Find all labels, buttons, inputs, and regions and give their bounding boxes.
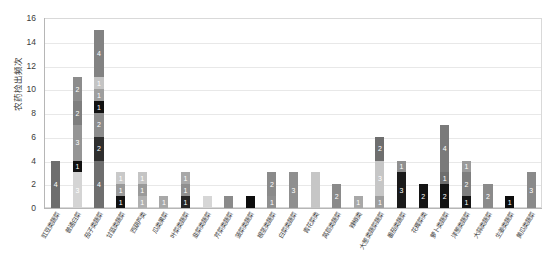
bar-segment[interactable]: 1 [375,196,384,208]
bar-segment-label: 2 [486,193,490,200]
bar-segment[interactable]: 2 [73,101,82,125]
bar-segment[interactable]: 1 [397,161,406,173]
bar-segment[interactable]: 4 [51,161,60,209]
bar-stack[interactable]: 4221114 [94,30,103,208]
bar-segment-label: 2 [335,193,339,200]
x-label-slot: 普通白菜 [67,209,89,275]
bar-stack[interactable]: 1 [354,196,363,208]
bar-segment-label: 1 [119,175,123,182]
bar-slot: 31 [397,18,406,208]
bar-segment[interactable]: 4 [94,161,103,209]
bar-segment[interactable]: 3 [397,172,406,208]
bar-stack[interactable]: 31 [397,161,406,209]
bar-segment[interactable] [224,196,233,208]
bar-stack[interactable]: 111 [181,172,190,208]
bar-segment-label: 2 [75,110,79,117]
bar-segment-label: 1 [140,187,144,194]
bar-segment[interactable]: 1 [116,172,125,184]
y-tick-label: 16 [2,14,36,23]
bar-segment[interactable] [203,196,212,208]
bar-segment-label: 1 [443,175,447,182]
bar-segment[interactable]: 2 [94,137,103,161]
bar-stack[interactable]: 12 [267,172,276,208]
bar-segment-label: 1 [183,187,187,194]
bar-segment[interactable]: 1 [181,196,190,208]
bar-segment[interactable]: 3 [375,161,384,197]
bar-segment[interactable]: 3 [289,172,298,208]
bar-stack[interactable] [246,196,255,208]
bar-segment[interactable]: 1 [159,196,168,208]
bar-segment[interactable] [246,196,255,208]
bar-stack[interactable]: 1 [159,196,168,208]
bar-segment[interactable]: 1 [354,196,363,208]
bar-segment-label: 1 [97,92,101,99]
bar-segment[interactable]: 2 [375,137,384,161]
bar-stack[interactable]: 2 [483,184,492,208]
bar-slot: 2 [332,18,341,208]
bar-segment[interactable]: 1 [116,196,125,208]
bar-segment-label: 1 [464,199,468,206]
bar-segment[interactable]: 1 [138,196,147,208]
bar-segment[interactable]: 1 [94,89,103,101]
bar-segment[interactable]: 1 [462,196,471,208]
bar-segment-label: 1 [183,175,187,182]
bar-segment[interactable]: 3 [527,172,536,208]
bar-segment[interactable]: 4 [94,30,103,78]
bar-stack[interactable]: 111 [116,172,125,208]
x-label-slot: 西葫芦类 [131,209,153,275]
x-label-slot: 瓜类果菜 [153,209,175,275]
bar-stack[interactable]: 3 [527,172,536,208]
bar-segment-label: 2 [75,86,79,93]
bar-stack[interactable]: 2 [332,184,341,208]
bar-segment[interactable]: 1 [73,161,82,173]
bar-segment[interactable]: 2 [94,113,103,137]
bar-slot: 2 [419,18,428,208]
bar-segment[interactable]: 4 [440,125,449,173]
bar-segment[interactable]: 1 [440,172,449,184]
x-axis-tick-labels: 豇豆类蔬菜普通白菜茄子类蔬菜甘蓝类蔬菜西葫芦类瓜类果菜叶菜类蔬菜韭菜类蔬菜芹菜类… [45,209,542,275]
bar-segment[interactable]: 1 [462,161,471,173]
bar-slot: 4221114 [94,18,103,208]
x-label-slot: 洋葱类蔬菜 [456,209,478,275]
bar-segment[interactable]: 1 [138,184,147,196]
bar-segment[interactable]: 2 [332,184,341,208]
bar-stack[interactable]: 3 [289,172,298,208]
bar-stack[interactable]: 214 [440,125,449,208]
bar-segment[interactable]: 3 [73,125,82,161]
bar-stack[interactable]: 2 [419,184,428,208]
y-tick-label: 8 [2,109,36,118]
bar-segment[interactable]: 2 [483,184,492,208]
bar-segment[interactable]: 2 [462,172,471,196]
bar-segment[interactable]: 2 [440,184,449,208]
bar-segment[interactable]: 2 [419,184,428,208]
bar-stack[interactable] [311,172,320,208]
bar-segment[interactable]: 1 [505,196,514,208]
x-label-slot: 黄瓜类蔬菜 [520,209,542,275]
bar-stack[interactable]: 31322 [73,77,82,208]
bar-stack[interactable]: 4 [51,161,60,209]
bar-segment[interactable]: 1 [94,101,103,113]
bar-stack[interactable] [224,196,233,208]
bar-segment[interactable]: 1 [267,196,276,208]
bar-segment[interactable]: 1 [94,77,103,89]
bar-segment[interactable]: 1 [181,184,190,196]
bar-stack[interactable] [203,196,212,208]
bar-segment[interactable]: 2 [73,77,82,101]
bar-segment-label: 1 [75,163,79,170]
bar-stack[interactable]: 1 [505,196,514,208]
bar-segment-label: 4 [443,145,447,152]
bar-segment-label: 1 [183,199,187,206]
bar-stack[interactable]: 132 [375,137,384,208]
bar-segment[interactable] [311,172,320,208]
bar-segment[interactable]: 2 [267,172,276,196]
bar-segment[interactable]: 3 [73,172,82,208]
bar-stack[interactable]: 121 [462,161,471,209]
bar-segment-label: 3 [75,139,79,146]
bar-segment[interactable]: 1 [181,172,190,184]
bar-segment-label: 1 [140,199,144,206]
x-label-slot: 甘蓝类蔬菜 [110,209,132,275]
x-tick-label: 西葫芦类 [130,211,148,235]
bar-segment[interactable]: 1 [116,184,125,196]
bar-segment[interactable]: 1 [138,172,147,184]
bar-stack[interactable]: 111 [138,172,147,208]
